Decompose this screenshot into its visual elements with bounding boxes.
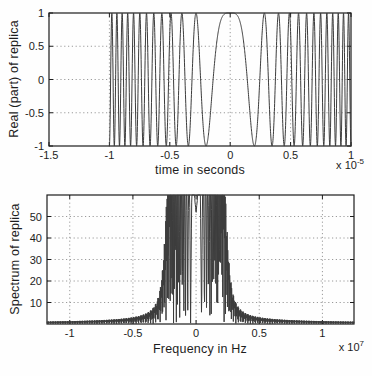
y-tick-label: 50 [30,211,42,223]
x-tick-label: 0.5 [252,327,267,339]
y-tick-label: -1 [34,140,44,152]
multiplier-exponent: -5 [357,157,364,166]
y-tick-label: 1 [38,7,44,19]
x-tick-label: -1 [65,327,75,339]
figure: -1.5-1-0.500.51-1-0.500.51-1-0.500.51102… [0,0,372,376]
y-axis-label-real-part: Real (part) of replica [7,0,23,159]
x-tick-label: 1 [319,327,325,339]
plot-canvas: -1.5-1-0.500.51-1-0.500.51-1-0.500.51102… [0,0,372,376]
x-tick-label: -0.5 [123,327,142,339]
x-tick-label: 0.5 [283,149,298,161]
x-scale-multiplier-frequency: x 107 [324,341,364,353]
x-tick-label: -1 [105,149,115,161]
multiplier-prefix: x 10 [336,159,357,171]
x-axis-label-frequency: Frequency in Hz [120,342,280,356]
y-tick-label: 30 [30,254,42,266]
y-tick-label: 10 [30,297,42,309]
multiplier-prefix: x 10 [339,341,360,353]
multiplier-exponent: 7 [360,339,364,348]
x-axis-label-time: time in seconds [120,163,280,177]
y-tick-label: 0.5 [29,40,44,52]
y-tick-label: -0.5 [25,107,44,119]
y-tick-label: 0 [38,74,44,86]
x-tick-label: 0 [227,149,233,161]
x-scale-multiplier-time: x 10-5 [324,159,364,171]
x-tick-label: -0.5 [160,149,179,161]
y-tick-label: 40 [30,232,42,244]
x-tick-label: 0 [193,327,199,339]
y-axis-label-spectrum: Spectrum of replica [8,179,24,339]
y-tick-label: 20 [30,275,42,287]
